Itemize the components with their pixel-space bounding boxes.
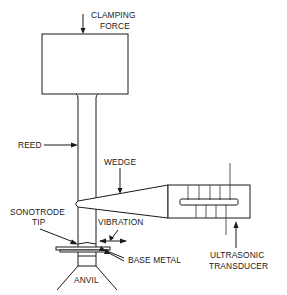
- wedge-arrow: [118, 168, 123, 194]
- wedge-label: WEDGE: [104, 157, 136, 167]
- base-metal-label: BASE METAL: [128, 255, 181, 265]
- base-metal-arrows: [99, 246, 124, 261]
- clamping-force-arrow: [81, 14, 86, 34]
- reed: [76, 94, 98, 250]
- clamping-force-label-1: CLAMPING: [91, 10, 136, 20]
- sonotrode-tip: [78, 243, 96, 245]
- transducer-label-1: ULTRASONIC: [210, 250, 264, 260]
- ultrasonic-transducer: [168, 163, 250, 235]
- transducer-arrow: [234, 221, 239, 248]
- vibration-label: VIBRATION: [98, 217, 143, 227]
- vibration-pointer: [109, 230, 118, 241]
- clamping-mass-block: [42, 34, 128, 94]
- clamping-force-label-2: FORCE: [100, 21, 130, 31]
- sonotrode-tip-arrow: [40, 229, 78, 245]
- vibration-double-arrow: [99, 239, 127, 244]
- sonotrode-tip-label-1: SONOTRODE: [10, 207, 65, 217]
- reed-arrow: [44, 143, 78, 148]
- reed-label: REED: [18, 140, 42, 150]
- transducer-label-2: TRANSDUCER: [209, 261, 268, 271]
- sonotrode-tip-label-2: TIP: [32, 217, 46, 227]
- wedge: [76, 185, 168, 218]
- ultrasonic-welding-diagram: CLAMPING FORCE REED WEDGE ULTRASO: [0, 0, 287, 295]
- anvil-label: ANVIL: [74, 275, 99, 285]
